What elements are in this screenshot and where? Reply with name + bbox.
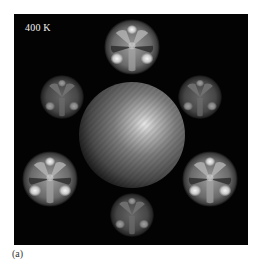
temperature-label: 400 K xyxy=(25,22,51,33)
panel-label: (a) xyxy=(12,248,23,259)
central-sphere xyxy=(79,82,185,188)
density-blob-bottom xyxy=(109,192,155,238)
density-blob-top xyxy=(103,18,161,76)
density-blob-lower-left xyxy=(21,150,79,208)
density-blob-upper-left xyxy=(39,74,85,120)
figure-panel: 400 K xyxy=(14,14,248,245)
density-blob-upper-right xyxy=(177,74,223,120)
density-blob-lower-right xyxy=(181,150,239,208)
